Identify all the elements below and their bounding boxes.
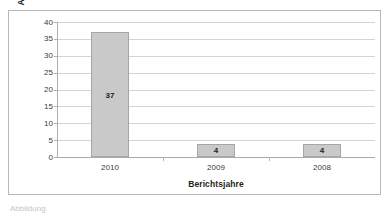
y-axis-tick-labels: 4035302520151050: [33, 18, 53, 160]
y-tick-label: 0: [33, 153, 53, 162]
x-category-separator: [269, 157, 270, 161]
y-axis-title: Anzahl der Unternehmen: [14, 0, 28, 22]
bar-2008[interactable]: 4: [303, 144, 341, 158]
x-axis-title: Berichtsjahre: [57, 179, 375, 190]
x-axis-line: [57, 157, 375, 158]
y-tick-label: 10: [33, 119, 53, 128]
x-axis-tick-labels: 201020092008: [57, 163, 375, 175]
y-tick-label: 25: [33, 68, 53, 77]
x-category-separator: [163, 157, 164, 161]
y-tick-label: 5: [33, 136, 53, 145]
figure-caption-partial: Abbildung: [10, 203, 130, 214]
bars-layer: 3744: [57, 22, 375, 157]
y-tick-label: 35: [33, 34, 53, 43]
bar-2010[interactable]: 37: [91, 32, 129, 157]
x-tick-label-2010: 2010: [57, 163, 163, 173]
x-tick-label-2009: 2009: [163, 163, 269, 173]
y-tick-label: 30: [33, 51, 53, 60]
bar-2009[interactable]: 4: [197, 144, 235, 158]
y-tick-label: 20: [33, 85, 53, 94]
bar-value-label: 37: [92, 91, 128, 100]
y-tick-label: 15: [33, 102, 53, 111]
x-tick-label-2008: 2008: [269, 163, 375, 173]
bar-value-label: 4: [304, 146, 340, 155]
bar-value-label: 4: [198, 146, 234, 155]
y-tick-label: 40: [33, 18, 53, 27]
